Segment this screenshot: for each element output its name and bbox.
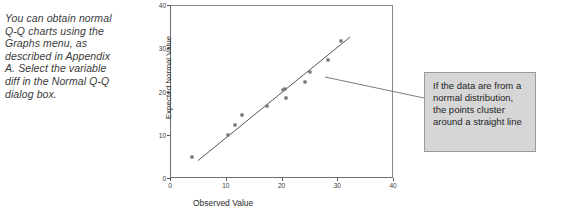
x-tick-label: 0 [168,182,172,189]
x-tick-mark [170,178,171,181]
data-point [233,123,236,126]
data-point [327,58,330,61]
y-tick-label: 0 [162,175,166,182]
data-point [241,113,244,116]
x-tick-mark [282,178,283,181]
y-axis-title: Expected Normal Value [164,18,173,138]
data-point [339,39,342,42]
reference-line [198,37,350,161]
data-point [283,87,286,90]
plot-frame: 010203040 010203040 [170,5,393,178]
callout-box: If the data are from a normal distributi… [424,72,536,152]
x-tick-mark [226,178,227,181]
data-point [190,155,193,158]
qq-chart: 010203040 010203040 Expected Normal Valu… [170,5,393,178]
x-tick-label: 10 [222,182,229,189]
data-point [304,80,307,83]
y-tick-label: 40 [159,2,166,9]
x-axis-title: Observed Value [193,198,253,208]
x-tick-mark [393,178,394,181]
x-tick-mark [337,178,338,181]
data-point [226,134,229,137]
x-tick-label: 40 [389,182,396,189]
x-tick-label: 30 [334,182,341,189]
data-point [266,104,269,107]
data-point [284,96,287,99]
reference-line-layer [170,5,393,178]
x-tick-label: 20 [278,182,285,189]
data-point [309,70,312,73]
side-note-text: You can obtain normal Q-Q charts using t… [5,12,117,100]
